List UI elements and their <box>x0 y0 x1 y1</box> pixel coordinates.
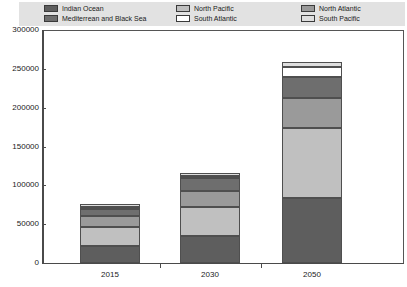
y-axis-tick-label: 150000 <box>12 143 39 151</box>
chart-legend: Indian Ocean Mediterrean and Black Sea N… <box>19 2 405 26</box>
legend-swatch-indian-ocean <box>44 5 58 12</box>
legend-label-north-pacific: North Pacific <box>194 5 234 13</box>
x-axis-tick-label: 2030 <box>201 270 219 279</box>
y-axis-tick-mark <box>42 224 46 225</box>
bar-segment <box>180 236 240 263</box>
y-axis-labels: 050000100000150000200000250000300000 <box>0 0 39 287</box>
bar-group-2015 <box>80 30 140 264</box>
chart-screenshot: Indian Ocean Mediterrean and Black Sea N… <box>0 0 407 287</box>
bar-segment <box>282 98 342 128</box>
bar-segment <box>80 207 140 209</box>
legend-label-south-pacific: South Pacific <box>319 15 360 23</box>
legend-item-south-atlantic: South Atlantic <box>176 14 237 23</box>
bar-segment <box>180 191 240 207</box>
y-axis-tick-label: 300000 <box>12 26 39 34</box>
legend-label-south-atlantic: South Atlantic <box>194 15 237 23</box>
bar-segment <box>282 198 342 263</box>
x-axis-tick-label: 2050 <box>303 270 321 279</box>
bar-segment <box>80 216 140 227</box>
legend-item-indian-ocean: Indian Ocean <box>44 4 146 13</box>
legend-swatch-north-atlantic <box>301 5 315 12</box>
bar-segment <box>80 227 140 246</box>
y-axis-tick-label: 50000 <box>17 220 39 228</box>
bar-segment <box>282 77 342 99</box>
y-axis-tick-mark <box>42 69 46 70</box>
legend-swatch-south-atlantic <box>176 15 190 22</box>
legend-label-north-atlantic: North Atlantic <box>319 5 361 13</box>
bar-group-2030 <box>180 30 240 264</box>
y-axis-tick-mark <box>42 108 46 109</box>
legend-item-south-pacific: South Pacific <box>301 14 361 23</box>
legend-item-north-pacific: North Pacific <box>176 4 237 13</box>
y-axis-tick-mark <box>42 147 46 148</box>
y-axis-tick-label: 0 <box>35 259 39 267</box>
bar-segment <box>180 176 240 178</box>
legend-label-mediterranean-and-black-sea: Mediterrean and Black Sea <box>62 15 146 23</box>
x-axis-tick-label: 2015 <box>101 270 119 279</box>
bar-segment <box>80 209 140 217</box>
legend-swatch-south-pacific <box>301 15 315 22</box>
bar-segment <box>80 246 140 263</box>
x-axis-spine <box>42 263 404 264</box>
bar-group-2050 <box>282 30 342 264</box>
bar-segment <box>282 128 342 198</box>
legend-item-mediterranean-and-black-sea: Mediterrean and Black Sea <box>44 14 146 23</box>
y-axis-tick-label: 200000 <box>12 104 39 112</box>
x-axis-tick-mark <box>261 264 262 268</box>
legend-column-2: North Pacific South Atlantic <box>176 4 237 23</box>
bar-segment <box>282 62 342 67</box>
bar-segment <box>180 178 240 191</box>
plot-area <box>42 30 404 264</box>
y-axis-tick-label: 100000 <box>12 181 39 189</box>
x-axis-tick-mark <box>160 264 161 268</box>
bar-segment <box>180 173 240 176</box>
legend-swatch-north-pacific <box>176 5 190 12</box>
y-axis-tick-label: 250000 <box>12 65 39 73</box>
legend-item-north-atlantic: North Atlantic <box>301 4 361 13</box>
legend-label-indian-ocean: Indian Ocean <box>62 5 104 13</box>
legend-column-3: North Atlantic South Pacific <box>301 4 361 23</box>
legend-column-1: Indian Ocean Mediterrean and Black Sea <box>44 4 146 23</box>
legend-swatch-mediterranean-and-black-sea <box>44 15 58 22</box>
bar-segment <box>282 67 342 76</box>
y-axis-tick-mark <box>42 185 46 186</box>
bar-segment <box>80 204 140 207</box>
bar-segment <box>180 207 240 236</box>
